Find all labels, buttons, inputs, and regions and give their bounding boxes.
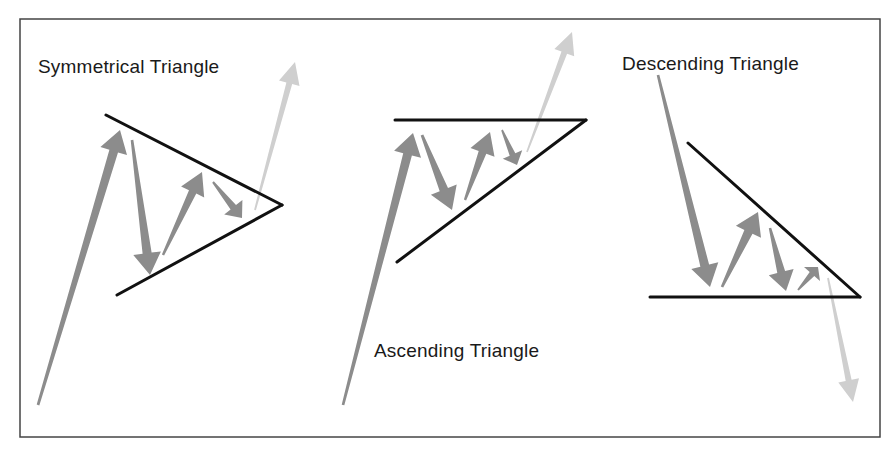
ascending-triangle-label: Ascending Triangle bbox=[374, 340, 539, 362]
symmetrical-triangle-label: Symmetrical Triangle bbox=[38, 56, 219, 78]
descending-triangle-label: Descending Triangle bbox=[622, 53, 799, 75]
triangle-patterns-diagram: Symmetrical Triangle Ascending Triangle … bbox=[0, 0, 896, 455]
